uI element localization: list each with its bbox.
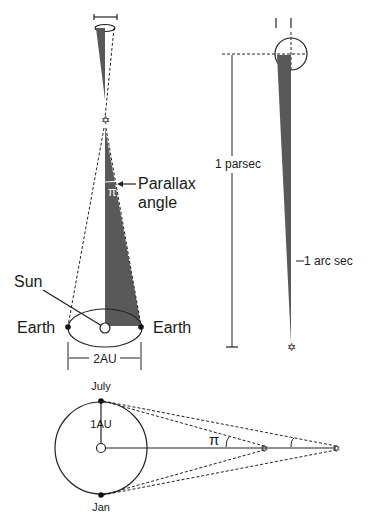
far-star-icon: ✡ bbox=[332, 443, 340, 454]
star-icon: ✡ bbox=[101, 114, 110, 126]
arc-sec-label: 1 arc sec bbox=[304, 254, 353, 268]
parallax-angle-label-line2: angle bbox=[138, 194, 177, 211]
earth-left-label: Earth bbox=[17, 319, 55, 336]
near-star-icon: ✡ bbox=[260, 443, 268, 454]
wedge-pi-label: π bbox=[108, 185, 116, 199]
right-parsec-diagram: ✡ 1 parsec 1 arc sec bbox=[215, 18, 353, 353]
top-scale-bracket bbox=[94, 14, 117, 20]
1au-label: 1AU bbox=[90, 418, 111, 430]
top-wedge bbox=[96, 28, 105, 100]
parsec-wedge bbox=[277, 55, 291, 344]
july-label: July bbox=[91, 380, 111, 392]
star-icon: ✡ bbox=[287, 341, 296, 353]
sun-label: Sun bbox=[14, 273, 42, 290]
pi-label: π bbox=[209, 431, 219, 448]
jan-label: Jan bbox=[92, 501, 110, 513]
parsec-label: 1 parsec bbox=[215, 157, 261, 171]
earth-right-dot bbox=[138, 324, 144, 330]
parallax-angle-label-line1: Parallax bbox=[138, 175, 196, 192]
bottom-orbit-diagram: July Jan 1AU π ✡ ✡ bbox=[55, 380, 340, 513]
2au-label: 2AU bbox=[93, 352, 116, 366]
earth-right-label: Earth bbox=[153, 319, 191, 336]
parallax-figure: ✡ π Parallax angle Sun Earth Earth bbox=[0, 0, 370, 522]
earth-left-dot bbox=[65, 324, 71, 330]
sun-icon bbox=[100, 323, 110, 333]
sun-icon bbox=[97, 444, 106, 453]
left-parallax-diagram: ✡ π Parallax angle Sun Earth Earth bbox=[14, 14, 196, 370]
july-earth-dot bbox=[98, 398, 104, 404]
jan-earth-dot bbox=[98, 492, 104, 498]
